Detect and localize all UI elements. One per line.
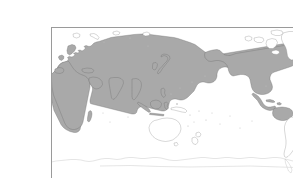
island-dot	[187, 125, 188, 126]
region-victoria-island	[254, 37, 264, 43]
island-dot	[266, 86, 267, 87]
island-dot	[148, 46, 149, 47]
island-dot	[170, 93, 171, 94]
island-dot	[252, 121, 253, 122]
island-dot	[104, 42, 105, 43]
screenshot-root	[0, 0, 293, 178]
island-dot	[212, 113, 213, 114]
island-dot	[128, 117, 129, 118]
island-dot	[230, 116, 231, 117]
island-dot	[176, 103, 177, 104]
island-dot	[192, 82, 193, 83]
island-dot	[220, 124, 221, 125]
world-map-canvas[interactable]	[40, 16, 293, 178]
island-dot	[205, 76, 206, 77]
island-dot	[130, 38, 131, 39]
island-dot	[205, 119, 206, 120]
world-map-figure	[40, 16, 293, 178]
island-dot	[240, 128, 241, 129]
island-dot	[198, 110, 199, 111]
island-dot	[180, 88, 181, 89]
island-dot	[189, 114, 190, 115]
island-dot	[194, 122, 195, 123]
island-dot	[103, 113, 104, 114]
island-dot	[110, 122, 111, 123]
